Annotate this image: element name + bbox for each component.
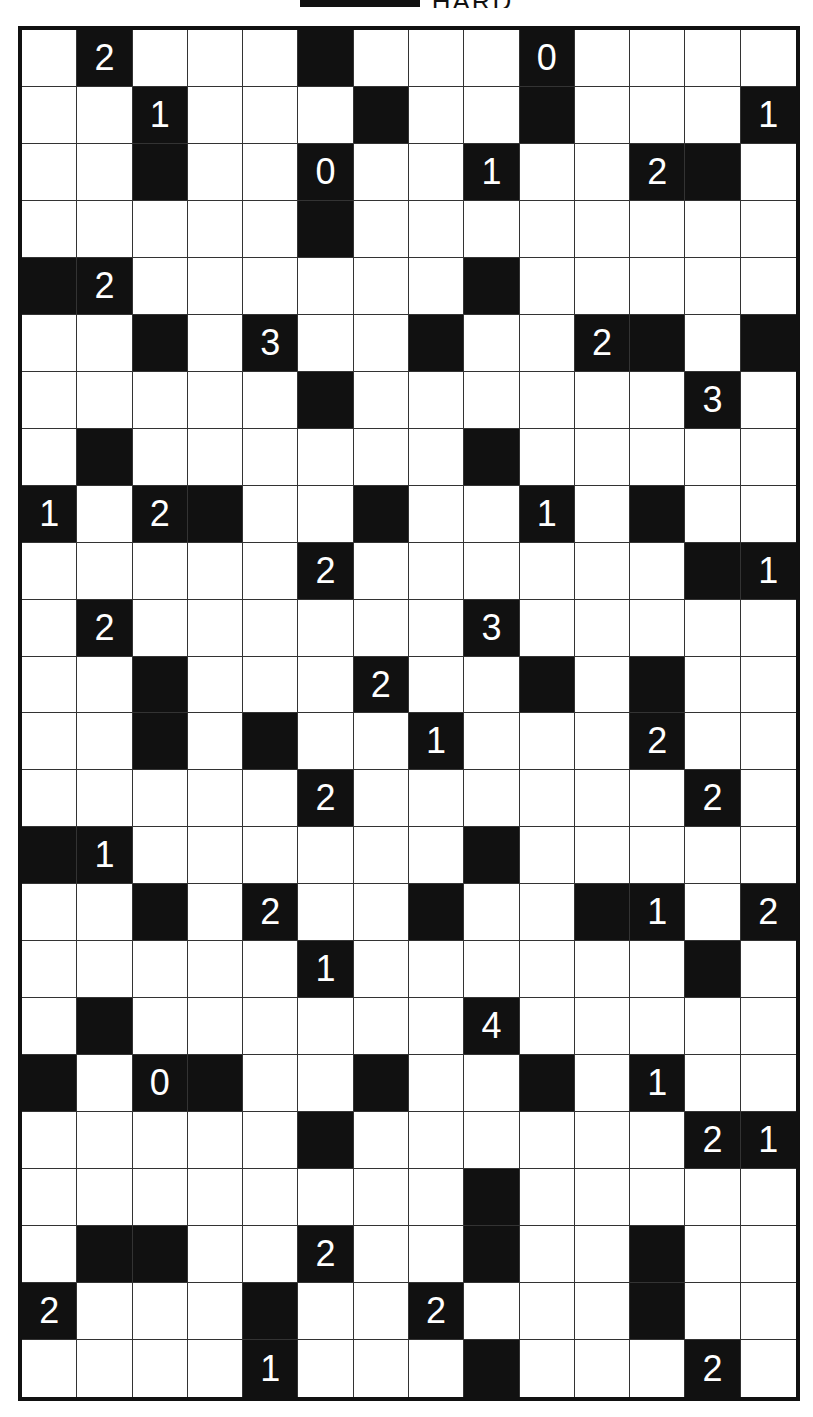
empty-cell[interactable] [575,770,630,827]
empty-cell[interactable] [741,372,796,429]
empty-cell[interactable] [22,201,77,258]
empty-cell[interactable] [188,144,243,201]
empty-cell[interactable] [188,1112,243,1169]
empty-cell[interactable] [464,713,519,770]
empty-cell[interactable] [133,429,188,486]
empty-cell[interactable] [464,941,519,998]
empty-cell[interactable] [243,87,298,144]
empty-cell[interactable] [520,600,575,657]
empty-cell[interactable] [630,998,685,1055]
empty-cell[interactable] [188,1169,243,1226]
empty-cell[interactable] [354,30,409,87]
empty-cell[interactable] [77,144,132,201]
empty-cell[interactable] [630,87,685,144]
empty-cell[interactable] [243,258,298,315]
empty-cell[interactable] [243,201,298,258]
empty-cell[interactable] [409,1112,464,1169]
empty-cell[interactable] [741,30,796,87]
empty-cell[interactable] [520,713,575,770]
empty-cell[interactable] [354,144,409,201]
empty-cell[interactable] [575,144,630,201]
empty-cell[interactable] [741,1055,796,1112]
empty-cell[interactable] [354,315,409,372]
empty-cell[interactable] [133,600,188,657]
empty-cell[interactable] [22,770,77,827]
empty-cell[interactable] [409,1169,464,1226]
empty-cell[interactable] [243,998,298,1055]
empty-cell[interactable] [520,201,575,258]
empty-cell[interactable] [77,770,132,827]
empty-cell[interactable] [575,657,630,714]
empty-cell[interactable] [575,713,630,770]
empty-cell[interactable] [409,87,464,144]
empty-cell[interactable] [22,87,77,144]
empty-cell[interactable] [298,87,353,144]
empty-cell[interactable] [520,941,575,998]
empty-cell[interactable] [520,543,575,600]
empty-cell[interactable] [575,87,630,144]
empty-cell[interactable] [22,372,77,429]
empty-cell[interactable] [575,1226,630,1283]
empty-cell[interactable] [133,543,188,600]
empty-cell[interactable] [520,429,575,486]
empty-cell[interactable] [133,770,188,827]
empty-cell[interactable] [464,1055,519,1112]
empty-cell[interactable] [298,884,353,941]
empty-cell[interactable] [298,258,353,315]
empty-cell[interactable] [464,201,519,258]
empty-cell[interactable] [630,201,685,258]
empty-cell[interactable] [354,258,409,315]
empty-cell[interactable] [298,713,353,770]
empty-cell[interactable] [188,87,243,144]
empty-cell[interactable] [520,770,575,827]
empty-cell[interactable] [188,998,243,1055]
empty-cell[interactable] [520,884,575,941]
empty-cell[interactable] [409,1055,464,1112]
empty-cell[interactable] [741,657,796,714]
empty-cell[interactable] [188,258,243,315]
empty-cell[interactable] [575,486,630,543]
empty-cell[interactable] [22,30,77,87]
empty-cell[interactable] [575,258,630,315]
empty-cell[interactable] [520,1169,575,1226]
empty-cell[interactable] [354,1226,409,1283]
empty-cell[interactable] [354,372,409,429]
empty-cell[interactable] [22,543,77,600]
empty-cell[interactable] [188,770,243,827]
empty-cell[interactable] [575,827,630,884]
empty-cell[interactable] [464,657,519,714]
empty-cell[interactable] [630,1112,685,1169]
empty-cell[interactable] [22,657,77,714]
empty-cell[interactable] [520,998,575,1055]
empty-cell[interactable] [77,1340,132,1397]
empty-cell[interactable] [409,543,464,600]
empty-cell[interactable] [133,258,188,315]
empty-cell[interactable] [464,87,519,144]
empty-cell[interactable] [133,1112,188,1169]
empty-cell[interactable] [685,713,740,770]
empty-cell[interactable] [188,884,243,941]
empty-cell[interactable] [685,827,740,884]
empty-cell[interactable] [741,770,796,827]
empty-cell[interactable] [133,998,188,1055]
empty-cell[interactable] [741,713,796,770]
empty-cell[interactable] [22,1340,77,1397]
empty-cell[interactable] [77,543,132,600]
empty-cell[interactable] [630,1169,685,1226]
empty-cell[interactable] [630,941,685,998]
empty-cell[interactable] [188,657,243,714]
empty-cell[interactable] [409,998,464,1055]
empty-cell[interactable] [409,1226,464,1283]
empty-cell[interactable] [409,600,464,657]
empty-cell[interactable] [685,1169,740,1226]
empty-cell[interactable] [354,827,409,884]
empty-cell[interactable] [188,372,243,429]
empty-cell[interactable] [575,1169,630,1226]
empty-cell[interactable] [575,201,630,258]
empty-cell[interactable] [409,657,464,714]
empty-cell[interactable] [243,372,298,429]
empty-cell[interactable] [464,486,519,543]
empty-cell[interactable] [409,372,464,429]
empty-cell[interactable] [630,258,685,315]
empty-cell[interactable] [685,884,740,941]
